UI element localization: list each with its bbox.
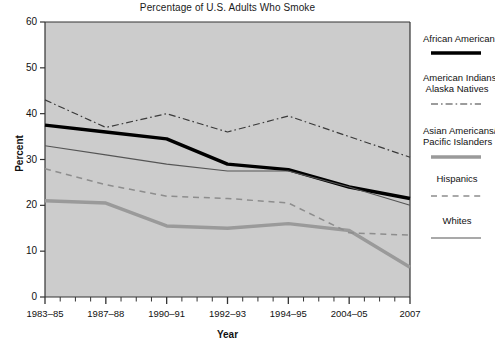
x-tick-label: 1990–91 xyxy=(132,308,202,319)
y-tick-label: 0 xyxy=(11,291,37,302)
y-tick-label: 60 xyxy=(11,16,37,27)
legend-item-label-2: Pacific Islanders xyxy=(423,136,491,147)
legend-item-label: Asian Americans/ xyxy=(423,125,491,136)
legend-item-4[interactable]: Whites xyxy=(423,215,491,226)
legend-item-label: American Indians/ xyxy=(423,72,491,83)
legend-item-label: Hispanics xyxy=(423,173,491,184)
plot-background xyxy=(45,22,410,297)
y-tick-label: 10 xyxy=(11,245,37,256)
x-tick-label: 1987–88 xyxy=(71,308,141,319)
chart-figure: Percentage of U.S. Adults Who Smoke Perc… xyxy=(0,0,495,350)
legend-item-0[interactable]: African American xyxy=(423,33,491,44)
plot-canvas xyxy=(0,0,495,350)
x-axis-ticks xyxy=(45,297,410,304)
x-tick-label: 1983–85 xyxy=(10,308,80,319)
y-axis-ticks xyxy=(40,22,45,297)
y-tick-label: 40 xyxy=(11,108,37,119)
y-tick-label: 30 xyxy=(11,154,37,165)
legend-item-3[interactable]: Hispanics xyxy=(423,173,491,184)
x-tick-label: 2004–05 xyxy=(314,308,384,319)
x-tick-label: 1994–95 xyxy=(253,308,323,319)
y-tick-label: 50 xyxy=(11,62,37,73)
legend-item-label-2: Alaska Natives xyxy=(423,83,491,94)
legend-item-label: Whites xyxy=(423,215,491,226)
legend-item-2[interactable]: Asian Americans/Pacific Islanders xyxy=(423,125,491,147)
legend-item-label: African American xyxy=(423,33,491,44)
y-tick-label: 20 xyxy=(11,199,37,210)
x-tick-label: 2007 xyxy=(375,308,445,319)
x-tick-label: 1992–93 xyxy=(193,308,263,319)
legend-item-1[interactable]: American Indians/Alaska Natives xyxy=(423,72,491,94)
